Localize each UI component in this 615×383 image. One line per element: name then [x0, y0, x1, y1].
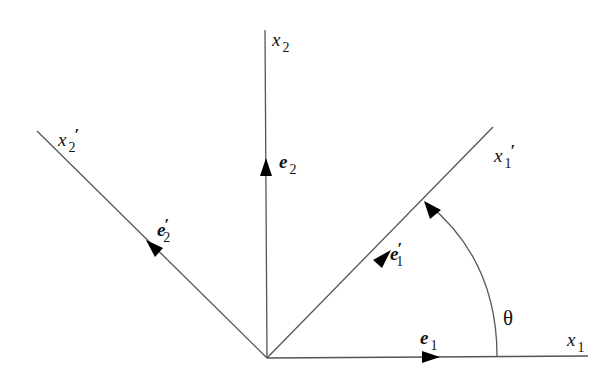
e1-prime-label: e′1: [390, 244, 403, 263]
theta-arc: [427, 203, 497, 356]
rotation-diagram: x2 x2′ x1′ x1 e2 e′2 e′1 e1 θ: [0, 0, 615, 383]
e1-var: e: [420, 327, 428, 348]
e1p-subscript: 1: [396, 254, 403, 269]
x1p-var: x: [494, 145, 502, 166]
x1-prime-axis-label: x1′: [494, 146, 515, 165]
x1-subscript: 1: [577, 340, 584, 355]
x2-axis-line: [265, 30, 267, 358]
x2p-prime: ′: [74, 125, 79, 144]
e2-arrowhead-icon: [260, 158, 272, 176]
x2-subscript: 2: [282, 40, 289, 55]
e1-label: e1: [420, 328, 437, 347]
e2-label: e2: [279, 152, 296, 171]
x2-var: x: [272, 29, 280, 50]
theta-arc-arrowhead-icon: [424, 201, 441, 219]
x2-axis-label: x2: [272, 30, 289, 49]
x1-prime-axis-line: [267, 127, 493, 358]
theta-label: θ: [503, 308, 513, 329]
e2-prime-label: e′2: [157, 220, 170, 239]
x1p-prime: ′: [510, 141, 515, 160]
e2p-subscript: 2: [163, 230, 170, 245]
x1-var: x: [567, 329, 575, 350]
x1-axis-label: x1: [567, 330, 584, 349]
e1-prime-arrowhead-icon: [373, 250, 391, 268]
e1-subscript: 1: [430, 338, 437, 353]
e2-prime-arrowhead-icon: [146, 240, 163, 257]
diagram-lines: [0, 0, 615, 383]
e2-var: e: [279, 151, 287, 172]
x2p-var: x: [58, 129, 66, 150]
x2-prime-axis-label: x2′: [58, 130, 79, 149]
e2-subscript: 2: [289, 162, 296, 177]
